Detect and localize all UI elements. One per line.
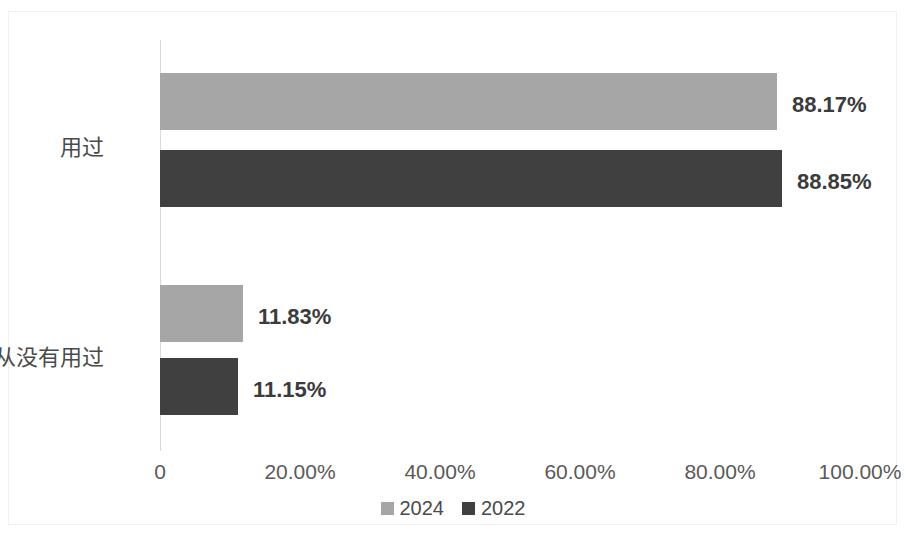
x-tick-label-5: 100.00% [819,460,902,484]
plot-area: 用过 88.17% 88.85% 我从没有用过 11.83% 11.15% [160,40,860,450]
x-tick-label-1: 20.00% [264,460,335,484]
x-tick-label-0: 0 [154,460,166,484]
category-label-0: 用过 [0,129,104,161]
legend-swatch-icon-2022 [462,502,475,515]
legend-item-2022[interactable]: 2022 [462,498,526,518]
legend-item-2024[interactable]: 2024 [381,498,445,518]
x-tick-label-3: 60.00% [544,460,615,484]
legend-label-2022: 2022 [481,498,526,518]
data-label-2022-category-0: 88.85% [797,171,872,193]
x-tick-label-2: 40.00% [404,460,475,484]
legend-label-2024: 2024 [400,498,445,518]
data-label-2022-category-1: 11.15% [253,379,326,401]
bar-chart: 用过 88.17% 88.85% 我从没有用过 11.83% 11.15% 0 … [0,0,906,535]
data-label-2024-category-0: 88.17% [792,94,867,116]
bar-2024-category-0 [160,73,777,130]
chart-legend: 2024 2022 [0,498,906,518]
bar-2022-category-0 [160,150,782,207]
x-tick-label-4: 80.00% [684,460,755,484]
bar-2024-category-1 [160,285,243,342]
category-label-1: 我从没有用过 [0,339,104,371]
bar-2022-category-1 [160,358,238,415]
legend-swatch-icon-2024 [381,502,394,515]
data-label-2024-category-1: 11.83% [258,306,331,328]
